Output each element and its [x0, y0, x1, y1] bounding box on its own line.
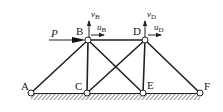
member-BC [87, 40, 88, 93]
joint-D [142, 37, 148, 43]
joint-E [140, 90, 146, 96]
uB-label: uB [97, 22, 107, 34]
truss-members [31, 40, 200, 93]
vD-label: vD [147, 9, 156, 21]
node-label-F: F [204, 80, 210, 92]
displacements-B: vB uB [89, 9, 107, 37]
member-DE [143, 40, 145, 93]
ground [31, 94, 200, 101]
node-labels: A B C D E F [21, 25, 210, 92]
joint-F [197, 90, 203, 96]
load-arrow-head-icon [72, 37, 86, 43]
node-label-C: C [75, 80, 82, 92]
node-label-B: B [76, 25, 83, 37]
ground-hatching [31, 94, 200, 100]
displacements-D: vD uD [145, 9, 164, 37]
load-label: P [50, 27, 58, 39]
joint-B [85, 37, 91, 43]
node-label-D: D [133, 25, 141, 37]
node-label-A: A [21, 80, 29, 92]
node-label-E: E [147, 79, 154, 91]
uD-label: uD [154, 22, 164, 34]
joint-C [84, 90, 90, 96]
truss-diagram: P vB uB vD uD A B C [0, 0, 223, 112]
vB-label: vB [91, 9, 100, 21]
truss-svg: P vB uB vD uD A B C [0, 0, 223, 112]
